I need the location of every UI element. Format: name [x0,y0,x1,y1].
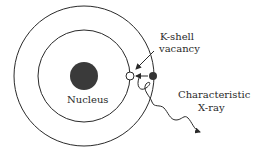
nucleus-label: Nucleus [67,94,108,106]
electron [149,72,157,80]
k-shell-vacancy [126,72,134,80]
vacancy-pointer-arrow [136,51,154,69]
characteristic-label: Characteristic [178,89,250,101]
atom-diagram [0,0,254,150]
vacancy-label: vacancy [159,43,200,55]
nucleus [70,62,98,90]
k-shell-label: K-shell [160,31,194,43]
x-ray-label: X-ray [198,102,225,114]
